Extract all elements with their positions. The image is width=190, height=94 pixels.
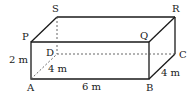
cuboid-diagram: S R P Q D C A B 2 m 6 m 4 m 4 m	[0, 0, 190, 94]
vertex-label-R: R	[172, 3, 180, 14]
dimension-length: 6 m	[82, 81, 102, 92]
dimension-height: 2 m	[9, 54, 29, 65]
edge-QR	[149, 17, 175, 42]
vertex-label-A: A	[26, 82, 35, 93]
vertex-label-B: B	[146, 82, 153, 93]
vertex-label-D: D	[46, 47, 54, 58]
dimension-width-diagonal: 4 m	[48, 63, 68, 74]
vertex-label-P: P	[22, 31, 29, 42]
vertex-label-Q: Q	[140, 30, 148, 41]
dimension-width-right: 4 m	[161, 67, 181, 78]
vertex-label-C: C	[179, 49, 187, 60]
vertex-label-S: S	[52, 3, 59, 14]
edge-PS	[31, 17, 57, 42]
